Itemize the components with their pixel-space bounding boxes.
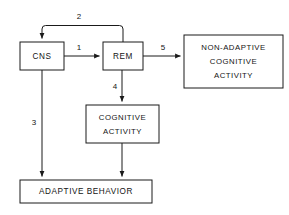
node-rem-label: REM <box>113 52 133 61</box>
edge-2-path <box>42 26 123 43</box>
node-non-adaptive-cognitive-activity-line-1: NON-ADAPTIVE <box>201 43 265 52</box>
edge-3-label: 3 <box>32 118 37 127</box>
edge-5-rem-to-non-adaptive: 5 <box>143 43 181 56</box>
node-cognitive-activity-line-1: COGNITIVE <box>99 113 146 122</box>
diagram-canvas: 2 1 5 4 3 CNS <box>0 0 289 215</box>
node-non-adaptive-cognitive-activity-line-3: ACTIVITY <box>214 71 253 80</box>
edge-4-label: 4 <box>113 82 118 91</box>
node-cns[interactable]: CNS <box>20 42 64 70</box>
node-cns-label: CNS <box>33 52 52 61</box>
node-non-adaptive-cognitive-activity[interactable]: NON-ADAPTIVE COGNITIVE ACTIVITY <box>184 35 283 88</box>
edge-2-label: 2 <box>77 12 82 21</box>
flow-diagram: 2 1 5 4 3 CNS <box>0 0 289 215</box>
node-adaptive-behavior[interactable]: ADAPTIVE BEHAVIOR <box>20 180 152 203</box>
edge-1-label: 1 <box>77 43 82 52</box>
edge-3-cns-to-adaptive-behavior: 3 <box>32 70 42 177</box>
edge-4-rem-to-cognitive-activity: 4 <box>113 70 122 102</box>
edge-5-label: 5 <box>161 43 166 52</box>
edge-2-rem-to-cns: 2 <box>42 12 123 42</box>
node-rem[interactable]: REM <box>103 42 143 70</box>
node-non-adaptive-cognitive-activity-line-2: COGNITIVE <box>210 57 257 66</box>
edge-1-cns-to-rem: 1 <box>64 43 100 56</box>
node-cognitive-activity-box[interactable] <box>86 105 159 143</box>
node-cognitive-activity[interactable]: COGNITIVE ACTIVITY <box>86 105 159 143</box>
node-cognitive-activity-line-2: ACTIVITY <box>103 127 142 136</box>
node-adaptive-behavior-label: ADAPTIVE BEHAVIOR <box>39 187 133 196</box>
